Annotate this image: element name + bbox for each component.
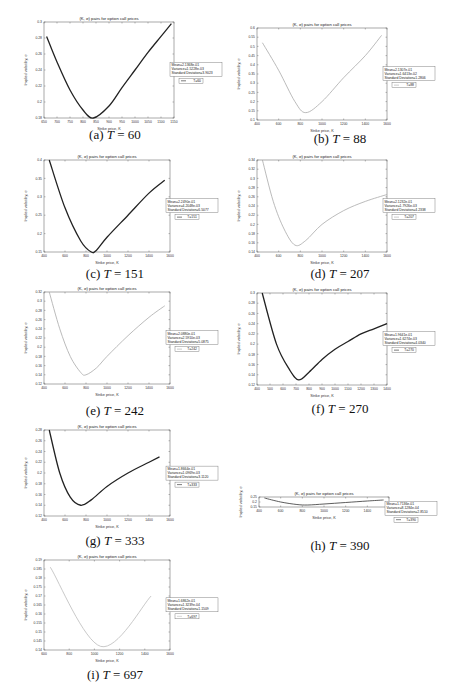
line-chart: (K, σ) pairs for option call prices40060… [0,287,225,392]
chart-panel-e: (K, σ) pairs for option call prices40060… [0,287,225,392]
x-tick-label: 1200 [124,254,132,258]
x-tick-label: 400 [256,509,262,513]
x-axis-label: Strike price, K [95,659,119,663]
svg-text:T=207: T=207 [404,215,414,219]
svg-text:T=697: T=697 [187,615,197,619]
y-tick-label: 0.24 [248,204,255,208]
y-tick-label: 0.2 [37,471,42,475]
x-tick-label: 1000 [331,387,339,391]
caption-g: (g) T = 333 [60,533,170,549]
chart-panel-i: (K, σ) pairs for option call prices60080… [0,548,225,668]
y-tick-label: 0.12 [35,382,42,386]
x-tick-label: 800 [297,122,303,126]
y-tick-label: 0.15 [35,630,42,634]
x-tick-label: 1200 [124,518,132,522]
y-tick-label: 0.22 [35,336,42,340]
stats-legend: Mean=2.0880e-01Variance=2.5910e-03Standa… [166,331,218,352]
y-tick-label: 0.4 [37,158,42,162]
y-tick-label: 0.16 [35,493,42,497]
x-tick-label: 800 [83,386,89,390]
y-axis-label: Implied volatility, σ [24,322,28,354]
y-tick-label: 0.24 [35,327,42,331]
caption-d: (d) T = 207 [285,266,395,282]
y-tick-label: 0.22 [248,332,255,336]
x-tick-label: 1000 [91,652,99,656]
svg-text:T=242: T=242 [187,347,197,351]
y-tick-label: 0.26 [35,439,42,443]
x-tick-label: 1100 [157,120,164,124]
y-tick-label: 0.3 [37,299,42,303]
x-tick-label: 950 [119,120,125,124]
x-tick-label: 900 [106,120,112,124]
y-tick-label: 0.15 [35,250,42,254]
y-tick-label: 0.18 [35,482,42,486]
plot-area [44,22,174,118]
y-tick-label: 0.19 [35,558,42,562]
x-tick-label: 1600 [383,122,391,126]
svg-text:Standard Deviation=4.2338: Standard Deviation=4.2338 [385,208,426,212]
y-tick-label: 0.24 [35,450,42,454]
x-tick-label: 750 [67,120,73,124]
y-tick-label: 0.14 [248,250,255,254]
y-tick-label: 0.28 [248,301,255,305]
chart-title: (K, σ) pairs for option call prices [77,424,136,429]
line-chart: (K, σ) pairs for option call prices40060… [225,150,449,268]
x-tick-label: 600 [276,254,282,258]
x-tick-label: 1150 [170,120,177,124]
x-axis-label: Strike price, K [95,261,119,265]
y-tick-label: 0.165 [34,603,43,607]
y-axis-label: Implied volatility, σ [24,589,28,621]
chart-title: (K, σ) pairs for option call prices [294,491,353,496]
x-tick-label: 1000 [318,254,326,258]
chart-panel-c: (K, σ) pairs for option call prices40060… [0,150,225,268]
line-chart: (K, σ) pairs for option call prices40060… [225,14,449,132]
y-tick-label: 0.2 [37,100,42,104]
y-tick-label: 0.185 [34,567,43,571]
x-tick-label: 800 [297,254,303,258]
x-tick-label: 800 [83,254,89,258]
y-tick-label: 0.155 [34,621,43,625]
chart-title: (K, σ) pairs for option call prices [292,22,351,27]
y-tick-label: 0.26 [35,318,42,322]
y-tick-label: 0.145 [34,639,43,643]
x-tick-label: 1400 [145,518,153,522]
y-tick-label: 0.15 [248,109,255,113]
y-tick-label: 0.25 [248,91,255,95]
chart-panel-f: (K, σ) pairs for option call prices40050… [225,283,449,401]
x-tick-label: 1200 [340,122,348,126]
y-tick-label: 0.3 [250,81,255,85]
y-axis-label: Implied volatility, σ [239,486,243,518]
x-tick-label: 1400 [145,386,153,390]
y-tick-label: 0.14 [248,373,255,377]
y-tick-label: 0.55 [248,35,255,39]
y-axis-label: Implied volatility, σ [24,190,28,222]
y-tick-label: 0.24 [35,68,42,72]
y-tick-label: 0.34 [248,158,255,162]
y-tick-label: 0.2 [250,223,255,227]
x-tick-label: 1200 [116,652,124,656]
stats-legend: Mean=1.9641e-01Variance=1.6274e-03Standa… [383,332,435,353]
y-tick-label: 0.22 [35,460,42,464]
y-axis-label: Implied volatility, σ [237,58,241,90]
y-tick-label: 0.28 [35,309,42,313]
y-tick-label: 0.18 [248,353,255,357]
y-tick-label: 0.2 [250,342,255,346]
x-tick-label: 400 [254,387,260,391]
chart-title: (K, σ) pairs for option call prices [292,154,351,159]
x-tick-label: 1400 [383,387,391,391]
chart-title: (K, σ) pairs for option call prices [77,554,136,559]
x-tick-label: 400 [41,386,47,390]
line-chart: (K, σ) pairs for option call prices65070… [0,14,225,132]
chart-panel-g: (K, σ) pairs for option call prices40060… [0,420,225,530]
y-tick-label: 0.3 [37,195,42,199]
x-tick-label: 1000 [320,509,328,513]
y-tick-label: 0.6 [250,26,255,30]
y-tick-label: 0.22 [35,84,42,88]
caption-e: (e) T = 242 [60,403,170,419]
y-tick-label: 0.4 [250,63,255,67]
y-tick-label: 0.32 [248,167,255,171]
x-tick-label: 1400 [362,254,370,258]
x-tick-label: 1400 [364,509,372,513]
stats-legend: Mean=2.1368e-01Variance=1.5228e-03Standa… [170,62,222,83]
x-tick-label: 800 [80,120,86,124]
